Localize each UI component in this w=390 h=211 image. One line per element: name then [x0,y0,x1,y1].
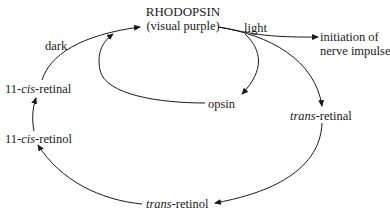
nerve-impulse-line1: initiation of [320,30,390,44]
cis-retinol-italic: cis [21,132,35,146]
node-nerve-impulse: initiation of nerve impulse [320,30,390,58]
trans-retinal-prefix: trans [290,109,316,123]
rhodopsin-title: RHODOPSIN [140,5,226,19]
arrow-cis-retinol-to-cis-retinal [33,98,36,131]
cis-retinol-suffix: -retinol [35,132,72,146]
cis-retinol-prefix: 11- [5,132,21,146]
trans-retinol-suffix: -retinol [172,197,209,211]
arrow-rhodopsin-to-opsin [242,34,259,94]
arrow-rhodopsin-to-nerve-impulse [218,27,318,37]
node-cis-retinol: 11-cis-retinol [5,132,72,146]
node-opsin: opsin [208,97,235,111]
node-trans-retinol: trans-retinol [146,197,209,211]
arrow-trans-retinol-to-cis-retinol [38,145,142,204]
nerve-impulse-line2: nerve impulse [320,44,390,58]
node-cis-retinal: 11-cis-retinal [5,82,71,96]
label-light: light [244,21,267,35]
cis-retinal-suffix: -retinal [35,82,71,96]
trans-retinal-suffix: -retinal [316,109,352,123]
rhodopsin-subtitle: (visual purple) [140,19,226,33]
cis-retinal-italic: cis [21,82,35,96]
node-trans-retinal: trans-retinal [290,109,352,123]
label-dark: dark [45,39,67,53]
trans-retinol-prefix: trans [146,197,172,211]
arrow-opsin-to-rhodopsin [99,34,205,103]
arrow-cis-retinal-to-rhodopsin [42,27,140,80]
node-rhodopsin: RHODOPSIN (visual purple) [140,5,226,33]
arrow-rhodopsin-to-trans-retinal [218,27,322,106]
arrow-trans-retinal-to-trans-retinol [215,123,322,203]
cis-retinal-prefix: 11- [5,82,21,96]
